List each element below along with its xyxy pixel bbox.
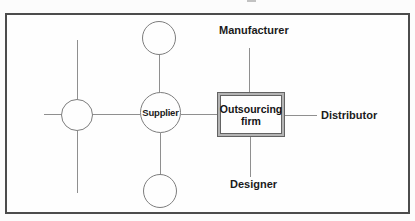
node-circle-top: [142, 21, 176, 55]
supplier-label: Supplier: [142, 107, 178, 118]
outsourcing-firm-label-line2: firm: [241, 115, 261, 127]
edge-left-circle-down: [77, 131, 78, 193]
edge-outsourcing-to-designer: [250, 137, 251, 177]
edge-left-circle-up: [77, 40, 78, 99]
node-designer-label: Designer: [230, 178, 277, 190]
node-circle-bottom: [143, 174, 177, 208]
edge-supplier-to-outsourcing: [181, 114, 217, 115]
edge-supplier-to-bottom-circle: [160, 133, 161, 174]
node-supplier: Supplier: [140, 92, 181, 133]
node-distributor-label: Distributor: [321, 109, 377, 121]
outsourcing-firm-label: Outsourcing firm: [220, 95, 282, 134]
node-outsourcing-firm: Outsourcing firm: [217, 92, 285, 137]
outsourcing-firm-label-line1: Outsourcing: [220, 103, 282, 115]
scan-artifact-mark: [247, 0, 256, 2]
scanned-diagram-page: { "figure": { "type": "network-diagram",…: [0, 0, 415, 221]
edge-outsourcing-to-distributor: [285, 115, 317, 116]
node-manufacturer-label: Manufacturer: [219, 24, 289, 36]
node-circle-left: [61, 99, 93, 131]
edge-manufacturer-to-outsourcing: [249, 48, 250, 92]
edge-top-circle-to-supplier: [159, 55, 160, 92]
